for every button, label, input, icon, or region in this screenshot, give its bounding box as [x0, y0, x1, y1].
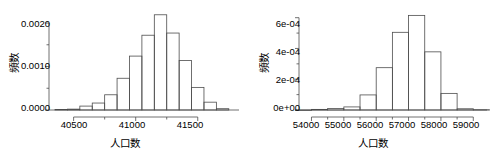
histogram-right-svg [305, 10, 483, 110]
histogram-bar [129, 56, 141, 110]
histogram-bar [360, 95, 376, 110]
histogram-bar [441, 93, 457, 110]
histogram-bar [154, 15, 166, 110]
histogram-bar [204, 102, 216, 110]
ytick-label-left-0: 0.0000 [0, 103, 50, 113]
histogram-left-svg [55, 10, 235, 110]
xtick-label-left-2: 41500 [160, 120, 220, 130]
histogram-figure: 0.0000 0.0010 0.0020 頻数 40500 41000 4150… [0, 0, 496, 160]
histogram-bar [392, 32, 408, 110]
histogram-bar [80, 106, 92, 110]
histogram-bar [117, 78, 129, 110]
xtick-label-left-0: 40500 [44, 120, 104, 130]
histogram-bar [179, 60, 191, 110]
xtick-label-right-5: 59000 [441, 120, 491, 130]
yaxis-title-right: 頻数 [259, 43, 270, 83]
histogram-bar [167, 33, 179, 110]
xaxis-title-left: 人口数 [95, 138, 155, 149]
histogram-bar [105, 95, 117, 110]
ytick-label-left-2: 0.0020 [0, 19, 50, 29]
ytick-label-right-3: 6e-04 [250, 19, 300, 29]
plot-area-left [55, 10, 235, 110]
histogram-panel-right: 0e+00 2e-04 4e-04 6e-04 頻数 54000 55000 5… [248, 0, 496, 160]
plot-area-right [305, 10, 483, 110]
xtick-label-left-1: 41000 [102, 120, 162, 130]
ytick-label-right-0: 0e+00 [250, 103, 300, 113]
histogram-panel-left: 0.0000 0.0010 0.0020 頻数 40500 41000 4150… [0, 0, 248, 160]
histogram-bar [92, 103, 104, 110]
histogram-bar [425, 52, 441, 110]
ytick-label-right-1: 2e-04 [250, 75, 300, 85]
xaxis-title-right: 人口数 [343, 138, 403, 149]
histogram-bar [142, 35, 154, 110]
histogram-bar [344, 107, 360, 110]
yaxis-title-left: 頻数 [9, 43, 20, 83]
histogram-bar [376, 68, 392, 110]
histogram-bar [409, 15, 425, 110]
histogram-bar [192, 87, 204, 110]
